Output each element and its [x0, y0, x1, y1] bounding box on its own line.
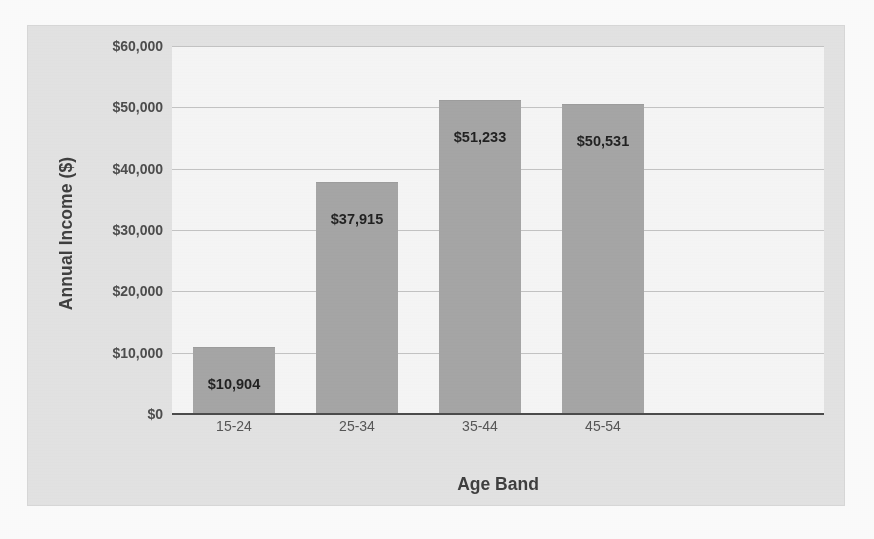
y-tick-label-0: $0 [147, 406, 163, 422]
x-tick-label-45-54: 45-54 [562, 418, 644, 434]
y-tick-label-30000: $30,000 [112, 222, 163, 238]
x-tick-label-25-34: 25-34 [316, 418, 398, 434]
y-tick-label-10000: $10,000 [112, 345, 163, 361]
bar-value-label-25-34: $37,915 [316, 211, 398, 227]
bar-45-54[interactable]: $50,531 [562, 104, 644, 414]
y-tick-label-50000: $50,000 [112, 99, 163, 115]
plot-area: $60,000 $50,000 $40,000 $30,000 $20,000 … [172, 46, 824, 414]
gridline-60000 [172, 46, 824, 47]
x-axis-line [172, 413, 824, 415]
y-tick-label-20000: $20,000 [112, 283, 163, 299]
y-axis-title: Annual Income ($) [56, 104, 77, 364]
y-tick-label-40000: $40,000 [112, 161, 163, 177]
bar-25-34[interactable]: $37,915 [316, 182, 398, 415]
y-tick-label-60000: $60,000 [112, 38, 163, 54]
x-tick-label-35-44: 35-44 [439, 418, 521, 434]
bar-value-label-15-24: $10,904 [193, 376, 275, 392]
bar-chart: Annual Income ($) Age Band $60,000 $50,0… [27, 25, 845, 506]
bar-value-label-35-44: $51,233 [439, 129, 521, 145]
bar-35-44[interactable]: $51,233 [439, 100, 521, 414]
bar-value-label-45-54: $50,531 [562, 133, 644, 149]
bar-15-24[interactable]: $10,904 [193, 347, 275, 414]
x-tick-label-15-24: 15-24 [193, 418, 275, 434]
x-axis-title: Age Band [168, 474, 828, 495]
scanned-page: Annual Income ($) Age Band $60,000 $50,0… [0, 0, 874, 539]
